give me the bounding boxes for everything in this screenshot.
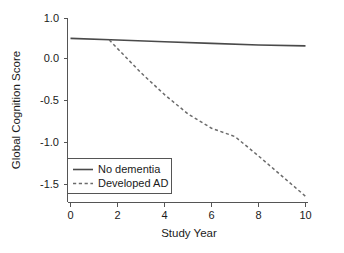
y-tick-label: -0.5 [40,94,59,106]
y-tick-label: 1.0 [44,12,59,24]
x-tick-label: 6 [208,209,214,221]
y-axis-title: Global Cognition Score [10,51,22,169]
legend-label-developed-ad: Developed AD [98,177,168,189]
line-chart: 1.0 0.0 -0.5 -1.0 -1.5 0 2 4 6 8 10 Stud… [0,0,344,253]
chart-container: 1.0 0.0 -0.5 -1.0 -1.5 0 2 4 6 8 10 Stud… [0,0,344,253]
x-tick-label: 8 [255,209,261,221]
legend-label-no-dementia: No dementia [98,163,161,175]
y-tick-label: -1.5 [40,178,59,190]
x-tick-label: 4 [161,209,167,221]
legend: No dementia Developed AD [68,159,172,194]
y-tick-label: 0.0 [44,52,59,64]
y-tick-label: -1.0 [40,136,59,148]
chart-background [0,0,344,253]
x-tick-label: 10 [299,209,311,221]
x-tick-label: 2 [114,209,120,221]
x-axis-title: Study Year [161,227,217,239]
x-tick-label: 0 [67,209,73,221]
